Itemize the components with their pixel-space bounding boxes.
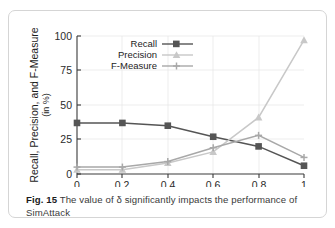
data-point (255, 132, 262, 139)
ytick-label-25: 25 (60, 133, 72, 145)
legend-label-recall: Recall (131, 38, 157, 49)
figure-caption: Fig. 15 The value of δ significantly imp… (26, 193, 312, 219)
y-axis-ticks (77, 36, 81, 174)
legend-marker-cross-fmeasure (173, 63, 180, 70)
xtick-label-0.4: 0.4 (161, 179, 176, 187)
data-point (301, 154, 308, 161)
ytick-label-50: 50 (60, 99, 72, 111)
xtick-label-0.6: 0.6 (206, 179, 221, 187)
ytick-label-0: 0 (66, 168, 72, 180)
caption-line-2: SimAttack (26, 206, 312, 219)
data-point (210, 133, 217, 140)
legend-label-fmeasure: F-Measure (111, 60, 157, 71)
figure-card: 100 75 50 25 0 0 0.2 0.4 0.6 0.8 1 Recal… (8, 10, 327, 218)
caption-body: The value of δ significantly impacts the… (57, 194, 297, 205)
ytick-label-75: 75 (60, 64, 72, 76)
data-point (300, 36, 308, 43)
data-point (74, 120, 81, 127)
data-point (119, 120, 126, 127)
series-f-measure (74, 132, 308, 171)
data-point (255, 114, 263, 121)
data-point (165, 122, 172, 129)
series-line (77, 123, 304, 166)
xtick-label-1: 1 (301, 179, 307, 187)
y-axis-title: Recall, Precision, and F-Measure (28, 27, 40, 182)
x-axis-ticks (77, 174, 304, 178)
ytick-label-100: 100 (54, 30, 72, 42)
chart-plot-region: 100 75 50 25 0 0 0.2 0.4 0.6 0.8 1 Recal… (21, 15, 317, 187)
y-axis-title-unit: (in %) (41, 93, 51, 117)
line-chart: 100 75 50 25 0 0 0.2 0.4 0.6 0.8 1 Recal… (21, 15, 317, 187)
data-point (301, 162, 308, 169)
xtick-label-0: 0 (74, 179, 80, 187)
xtick-label-0.8: 0.8 (252, 179, 267, 187)
series-recall (74, 120, 308, 169)
caption-line-1: Fig. 15 The value of δ significantly imp… (26, 193, 312, 206)
grid-lines (77, 36, 304, 174)
caption-figure-number: Fig. 15 (26, 194, 57, 205)
chart-legend: Recall Precision F-Measure (111, 38, 193, 71)
legend-marker-square-recall (173, 41, 180, 48)
data-point (255, 143, 262, 150)
legend-label-precision: Precision (118, 49, 157, 60)
xtick-label-0.2: 0.2 (115, 179, 130, 187)
